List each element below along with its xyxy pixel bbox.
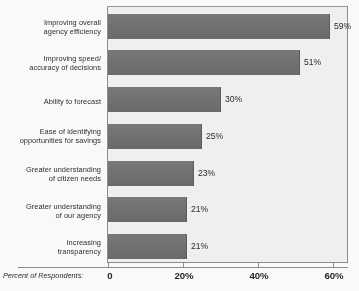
horizontal-bar-chart: Improving overall agency efficiency Impr… <box>0 0 359 291</box>
plot-area: 59% 51% 30% 25% 23% 21% 21% <box>107 6 348 263</box>
category-label: Increasing transparency <box>0 238 101 257</box>
category-label-line: Ease of identifying <box>0 127 101 136</box>
bar-value-label: 51% <box>304 57 321 67</box>
category-label: Ease of identifying opportunities for sa… <box>0 127 101 146</box>
x-axis-tick <box>333 263 334 268</box>
category-label-line: transparency <box>0 247 101 256</box>
category-label-line: Greater understanding <box>0 165 101 174</box>
category-label: Ability to forecast <box>0 97 101 106</box>
bar-value-label: 21% <box>191 204 208 214</box>
category-label: Greater understanding of citizen needs <box>0 165 101 184</box>
bar-greater-understanding-of-citizen-needs <box>108 161 194 186</box>
bar-value-label: 21% <box>191 241 208 251</box>
category-label: Greater understanding of our agency <box>0 202 101 221</box>
category-label-line: Improving overall <box>0 18 101 27</box>
category-axis-labels: Improving overall agency efficiency Impr… <box>0 6 101 263</box>
category-label-line: agency efficiency <box>0 27 101 36</box>
category-label-line: accuracy of decisions <box>0 63 101 72</box>
category-label-line: of our agency <box>0 211 101 220</box>
category-label-line: Ability to forecast <box>0 97 101 106</box>
bar-improving-speed-accuracy-of-decisions <box>108 50 300 75</box>
bar-ability-to-forecast <box>108 87 221 112</box>
x-axis-tick <box>108 263 109 268</box>
x-axis-tick-label: 40% <box>249 270 268 281</box>
category-label-line: Greater understanding <box>0 202 101 211</box>
x-axis-tick-label: 20% <box>174 270 193 281</box>
category-label-line: opportunities for savings <box>0 136 101 145</box>
x-axis-tick-label: 0 <box>107 270 112 281</box>
bar-increasing-transparency <box>108 234 187 259</box>
x-axis-tick <box>258 263 259 268</box>
bar-value-label: 30% <box>225 94 242 104</box>
bar-value-label: 25% <box>206 131 223 141</box>
category-label-line: Improving speed/ <box>0 54 101 63</box>
bar-value-label: 23% <box>198 168 215 178</box>
x-axis-tick <box>183 263 184 268</box>
category-label: Improving speed/ accuracy of decisions <box>0 54 101 73</box>
category-label: Improving overall agency efficiency <box>0 18 101 37</box>
bar-ease-of-identifying-opportunities-for-savings <box>108 124 202 149</box>
category-label-line: Increasing <box>0 238 101 247</box>
bar-greater-understanding-of-our-agency <box>108 197 187 222</box>
x-axis-caption: Percent of Respondents: <box>3 271 83 280</box>
category-label-line: of citizen needs <box>0 174 101 183</box>
bar-value-label: 59% <box>334 21 351 31</box>
bar-improving-overall-agency-efficiency <box>108 14 330 39</box>
x-axis-tick-label: 60% <box>324 270 343 281</box>
